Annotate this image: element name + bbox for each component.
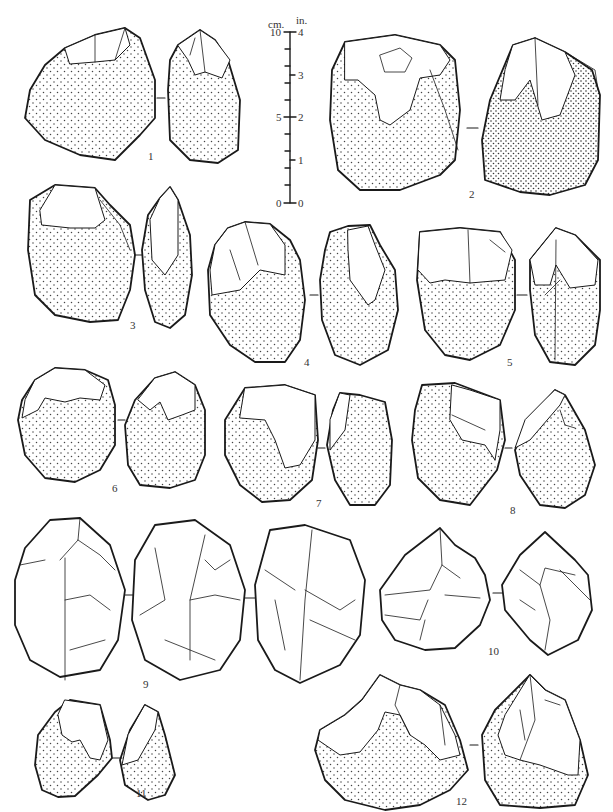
figure-label-9: 9: [143, 678, 149, 690]
figure-label-4: 4: [304, 356, 310, 368]
scale-in-4: 4: [298, 26, 304, 38]
scale-cm-0: 0: [276, 197, 282, 209]
figure-label-2: 2: [469, 188, 475, 200]
figure-label-10: 10: [488, 645, 499, 657]
scale-unit-in: in.: [296, 14, 307, 26]
figure-label-7: 7: [316, 497, 322, 509]
artifact-drawings: [0, 0, 613, 812]
scale-in-0: 0: [298, 197, 304, 209]
figure-12: [315, 675, 588, 810]
figure-8: [412, 383, 595, 508]
figure-3: [28, 185, 192, 328]
scale-bar: [284, 32, 296, 203]
illustration-plate: cm. in. 10 5 0 4 3 2 1 0 1 2 3 4 5 6 7 8…: [0, 0, 613, 812]
scale-in-3: 3: [298, 69, 304, 81]
scale-in-1: 1: [298, 154, 304, 166]
figure-label-1: 1: [148, 150, 154, 162]
figure-6: [18, 368, 205, 488]
figure-label-8: 8: [510, 504, 516, 516]
scale-cm-5: 5: [276, 111, 282, 123]
figure-label-12: 12: [456, 795, 467, 807]
figure-2: [330, 35, 600, 195]
figure-label-5: 5: [507, 356, 513, 368]
figure-4: [208, 222, 398, 365]
figure-5: [417, 228, 600, 365]
figure-9: [15, 518, 365, 683]
scale-in-2: 2: [298, 111, 304, 123]
figure-1: [25, 28, 240, 163]
scale-cm-10: 10: [270, 26, 281, 38]
figure-label-3: 3: [130, 319, 136, 331]
figure-11: [35, 700, 175, 800]
figure-7: [225, 385, 392, 505]
figure-10: [380, 528, 592, 655]
figure-label-6: 6: [112, 482, 118, 494]
figure-label-11: 11: [136, 787, 147, 799]
